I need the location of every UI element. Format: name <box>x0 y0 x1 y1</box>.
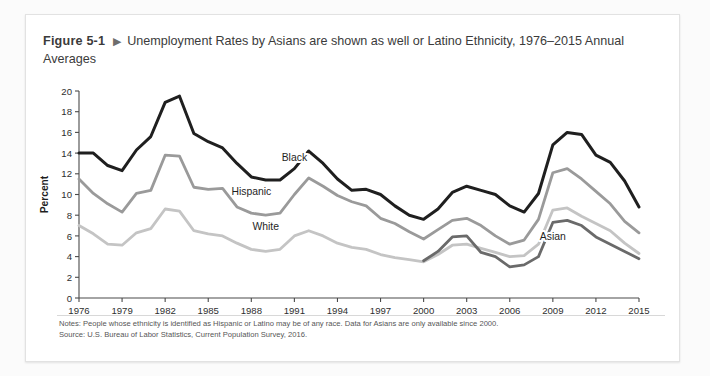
y-tick-label: 6 <box>67 231 72 242</box>
x-tick-label: 1988 <box>241 305 262 316</box>
y-tick-label: 10 <box>61 189 72 200</box>
x-axis: 1976197919821985198819911994199720002003… <box>68 298 649 316</box>
figure-page: Figure 5-1▶Unemployment Rates by Asians … <box>0 0 710 376</box>
source-line: Source: U.S. Bureau of Labor Statistics,… <box>59 329 663 340</box>
chart-area: 02468101214161820 1976197919821985198819… <box>26 15 681 363</box>
figure-card: Figure 5-1▶Unemployment Rates by Asians … <box>25 14 680 362</box>
series-label-white: White <box>252 221 279 232</box>
y-tick-label: 8 <box>67 210 72 221</box>
x-tick-label: 2015 <box>628 305 649 316</box>
x-tick-label: 1994 <box>327 305 349 316</box>
x-tick-label: 1979 <box>111 305 132 316</box>
unemployment-line-chart: 02468101214161820 1976197919821985198819… <box>26 15 681 363</box>
x-tick-label: 2009 <box>542 305 563 316</box>
y-tick-label: 18 <box>61 106 72 117</box>
y-tick-label: 16 <box>61 127 72 138</box>
notes-line: Notes: People whose ethnicity is identif… <box>59 318 663 329</box>
notes-divider <box>57 315 665 316</box>
y-tick-label: 2 <box>67 272 72 283</box>
x-tick-label: 2012 <box>585 305 606 316</box>
y-tick-label: 14 <box>61 148 72 159</box>
figure-notes: Notes: People whose ethnicity is identif… <box>59 318 663 341</box>
x-tick-label: 1985 <box>198 305 219 316</box>
x-tick-label: 1976 <box>68 305 89 316</box>
y-tick-label: 4 <box>67 251 73 262</box>
x-tick-label: 2000 <box>413 305 434 316</box>
series-label-hispanic: Hispanic <box>231 186 271 197</box>
y-tick-label: 20 <box>61 86 72 97</box>
y-axis-title: Percent <box>39 175 50 213</box>
series-labels: BlackBlackHispanicHispanicWhiteWhiteAsia… <box>231 152 566 242</box>
x-tick-label: 1997 <box>370 305 391 316</box>
x-tick-label: 2003 <box>456 305 477 316</box>
x-tick-label: 1982 <box>154 305 175 316</box>
y-axis: 02468101214161820 <box>61 86 79 304</box>
series-label-asian: Asian <box>540 231 566 242</box>
series-label-black: Black <box>282 152 308 163</box>
x-tick-label: 1991 <box>284 305 305 316</box>
y-tick-label: 12 <box>61 168 72 179</box>
y-tick-label: 0 <box>67 293 72 304</box>
x-tick-label: 2006 <box>499 305 520 316</box>
